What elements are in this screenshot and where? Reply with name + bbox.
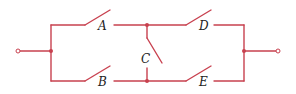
switch-c-label: C <box>141 52 150 66</box>
switch-d: D <box>147 10 244 33</box>
switch-b: B <box>51 66 147 89</box>
input-terminal <box>16 49 51 53</box>
switch-circuit-diagram: A B C D E <box>0 0 296 94</box>
switch-e: E <box>147 66 244 89</box>
switch-d-label: D <box>198 19 209 33</box>
switch-c: C <box>141 25 162 81</box>
switch-a: A <box>51 10 147 33</box>
switch-b-label: B <box>97 75 107 89</box>
output-terminal <box>244 49 280 53</box>
switch-e-label: E <box>198 75 208 89</box>
switch-a-label: A <box>97 19 107 33</box>
